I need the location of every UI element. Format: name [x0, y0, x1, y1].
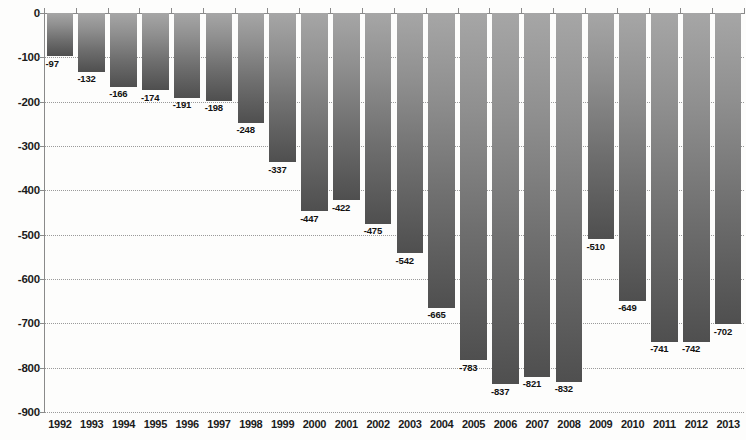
bar[interactable] [524, 13, 551, 377]
bar-value-label: -649 [618, 302, 636, 313]
bar-value-label: -742 [682, 343, 700, 354]
y-tick-label: 0 [0, 7, 40, 19]
x-tick-label: 2012 [680, 418, 712, 430]
bar[interactable] [651, 13, 678, 342]
x-tick-mark [489, 8, 490, 14]
x-tick-mark [649, 8, 650, 14]
x-tick-label: 2011 [649, 418, 681, 430]
x-tick-mark [712, 8, 713, 14]
bar-value-label: -132 [77, 73, 95, 84]
x-tick-mark [362, 8, 363, 14]
bar[interactable] [78, 13, 105, 72]
y-tick-label: -900 [0, 406, 40, 418]
x-tick-label: 2004 [426, 418, 458, 430]
bar-value-label: -97 [46, 58, 59, 69]
x-tick-label: 2007 [521, 418, 553, 430]
x-tick-label: 1996 [171, 418, 203, 430]
bar[interactable] [333, 13, 360, 200]
bar-value-label: -475 [364, 225, 382, 236]
bar[interactable] [492, 13, 519, 384]
bar[interactable] [365, 13, 392, 224]
y-tick-mark [39, 102, 45, 103]
bar[interactable] [269, 13, 296, 162]
y-tick-mark [39, 57, 45, 58]
x-tick-label: 1994 [108, 418, 140, 430]
bar-value-label: -665 [427, 309, 445, 320]
gridline--900 [44, 412, 744, 413]
x-tick-label: 1995 [139, 418, 171, 430]
y-tick-mark [39, 235, 45, 236]
bar-value-label: -422 [332, 202, 350, 213]
bar-value-label: -821 [523, 378, 541, 389]
x-tick-mark [171, 8, 172, 14]
bar[interactable] [174, 13, 201, 98]
bar-value-label: -248 [237, 124, 255, 135]
y-tick-label: -200 [0, 96, 40, 108]
y-tick-mark [39, 146, 45, 147]
x-tick-mark [139, 8, 140, 14]
bar[interactable] [556, 13, 583, 382]
x-tick-label: 2003 [394, 418, 426, 430]
x-tick-mark [394, 8, 395, 14]
bar-value-label: -702 [714, 326, 732, 337]
x-tick-label: 2002 [362, 418, 394, 430]
bar-value-label: -741 [650, 343, 668, 354]
bar-value-label: -832 [555, 383, 573, 394]
x-tick-mark [235, 8, 236, 14]
x-tick-mark [108, 8, 109, 14]
x-tick-mark [203, 8, 204, 14]
y-tick-label: -800 [0, 362, 40, 374]
y-tick-mark [39, 13, 45, 14]
bar-value-label: -174 [141, 92, 159, 103]
bar[interactable] [110, 13, 137, 87]
y-axis-line [44, 13, 45, 412]
bar-value-label: -447 [300, 213, 318, 224]
x-tick-label: 1993 [76, 418, 108, 430]
x-tick-mark [680, 8, 681, 14]
y-tick-label: -600 [0, 273, 40, 285]
bar[interactable] [206, 13, 233, 101]
y-tick-label: -100 [0, 51, 40, 63]
x-tick-mark [330, 8, 331, 14]
bar[interactable] [715, 13, 742, 324]
x-tick-mark [458, 8, 459, 14]
y-tick-label: -700 [0, 317, 40, 329]
bar[interactable] [683, 13, 710, 342]
bar[interactable] [47, 13, 74, 56]
bar[interactable] [619, 13, 646, 301]
x-tick-label: 2006 [489, 418, 521, 430]
x-tick-mark [299, 8, 300, 14]
x-tick-label: 2008 [553, 418, 585, 430]
bar[interactable] [142, 13, 169, 90]
y-tick-label: -300 [0, 140, 40, 152]
bar[interactable] [301, 13, 328, 211]
x-tick-mark [521, 8, 522, 14]
x-tick-label: 2000 [299, 418, 331, 430]
bar[interactable] [428, 13, 455, 308]
y-tick-label: -500 [0, 229, 40, 241]
gridline--800 [44, 368, 744, 369]
bar-value-label: -542 [396, 255, 414, 266]
bar[interactable] [397, 13, 424, 253]
bar[interactable] [238, 13, 265, 123]
y-tick-mark [39, 323, 45, 324]
bar[interactable] [460, 13, 487, 360]
x-tick-label: 2010 [617, 418, 649, 430]
x-tick-mark [553, 8, 554, 14]
bar-value-label: -510 [587, 241, 605, 252]
y-tick-label: -400 [0, 184, 40, 196]
x-tick-mark [267, 8, 268, 14]
x-tick-mark [426, 8, 427, 14]
bar-value-label: -166 [109, 88, 127, 99]
bar[interactable] [588, 13, 615, 239]
x-tick-mark [744, 8, 745, 14]
x-tick-mark [585, 8, 586, 14]
x-tick-label: 2013 [712, 418, 744, 430]
plot-area: -97-132-166-174-191-198-248-337-447-422-… [44, 13, 744, 412]
y-tick-mark [39, 412, 45, 413]
x-tick-label: 1992 [44, 418, 76, 430]
bar-chart: -97-132-166-174-191-198-248-337-447-422-… [0, 0, 746, 440]
x-tick-mark [76, 8, 77, 14]
bar-value-label: -837 [491, 386, 509, 397]
x-tick-mark [617, 8, 618, 14]
